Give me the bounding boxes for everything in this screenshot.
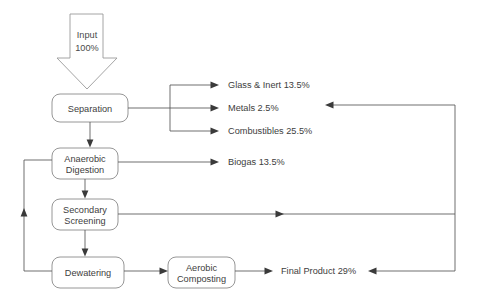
node-secondary-screening-label-line2: Screening (64, 216, 105, 226)
output-label-biogas: Biogas 13.5% (228, 157, 285, 167)
input-label-line2: 100% (75, 43, 99, 53)
node-anaerobic-digestion[interactable]: Anaerobic Digestion (52, 148, 118, 179)
output-label-glass-inert: Glass & Inert 13.5% (228, 80, 310, 90)
output-label-final-product: Final Product 29% (281, 266, 356, 276)
node-aerobic-composting-label-line2: Composting (177, 274, 226, 284)
node-separation[interactable]: Separation (52, 94, 128, 122)
output-label-metals: Metals 2.5% (228, 103, 279, 113)
node-secondary-screening-label-line1: Secondary (63, 205, 107, 215)
output-label-combustibles: Combustibles 25.5% (228, 126, 312, 136)
connector-dewatering-to-composting (124, 268, 168, 275)
connector-separation-branch (128, 82, 219, 135)
input-label-line1: Input (77, 30, 98, 40)
node-anaerobic-digestion-label-line1: Anaerobic (64, 154, 106, 164)
node-dewatering[interactable]: Dewatering (52, 257, 124, 288)
connector-screening-to-dewatering (82, 230, 89, 257)
connector-anaerobic-to-screening (82, 179, 89, 199)
node-dewatering-label: Dewatering (65, 268, 111, 278)
flowchart-svg: Input 100% Separation Anaerobic Digestio… (0, 0, 478, 305)
node-anaerobic-digestion-label-line2: Digestion (66, 165, 104, 175)
connector-recycle-to-final-product (368, 214, 455, 274)
connector-screening-recycle (118, 211, 455, 218)
connector-composting-to-final-product (235, 268, 273, 275)
connector-separation-to-anaerobic (87, 122, 94, 148)
connector-anaerobic-to-biogas (118, 159, 219, 166)
node-aerobic-composting-label-line1: Aerobic (186, 263, 218, 273)
connector-recycle-to-separation (325, 102, 455, 214)
node-secondary-screening[interactable]: Secondary Screening (52, 199, 118, 230)
node-separation-label: Separation (68, 104, 112, 114)
node-aerobic-composting[interactable]: Aerobic Composting (168, 257, 235, 288)
flowchart-canvas: Input 100% Separation Anaerobic Digestio… (0, 0, 478, 305)
connector-dewatering-return-loop (21, 160, 52, 271)
